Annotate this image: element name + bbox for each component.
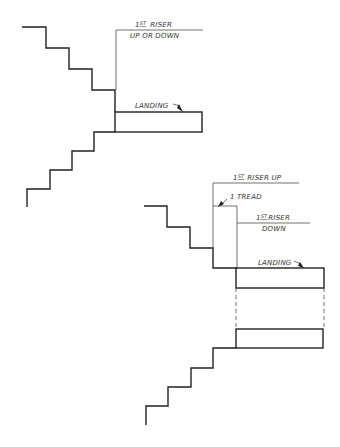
upper-right-stair xyxy=(144,206,237,268)
riser-label: 1STRISER xyxy=(135,20,172,29)
riser-up-label: 1STRISER UP xyxy=(233,173,282,182)
riser-sub-label: UP OR DOWN xyxy=(130,32,180,40)
landing-label-right: LANDING xyxy=(258,259,292,267)
right-landing-lower xyxy=(236,329,323,348)
lower-right-stair xyxy=(146,348,236,425)
upper-left-stair xyxy=(22,27,115,112)
riser-down-label: 1STRISER xyxy=(256,213,290,222)
stair-diagram: 1STRISER UP OR DOWN LANDING 1STRISER UP … xyxy=(0,0,340,447)
landing-label-top: LANDING xyxy=(135,102,169,110)
top-landing xyxy=(115,112,202,132)
lower-left-stair xyxy=(27,132,115,207)
tread-label: 1 TREAD xyxy=(230,193,262,201)
right-landing-upper xyxy=(236,268,324,288)
riser-down-sub: DOWN xyxy=(262,225,286,233)
